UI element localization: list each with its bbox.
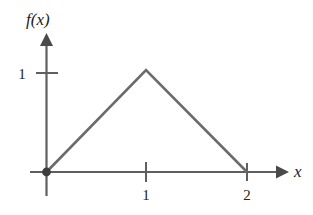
plot-canvas: f(x) x 1 1 2 — [0, 0, 313, 215]
x-axis-label: x — [293, 162, 302, 181]
y-axis-arrowhead-icon — [40, 33, 53, 46]
x-tick-label-1: 1 — [142, 187, 150, 203]
y-tick-label-1: 1 — [18, 66, 26, 82]
function-plot-figure: f(x) x 1 1 2 — [0, 0, 313, 215]
origin-point-marker — [42, 168, 51, 177]
x-axis-arrowhead-icon — [276, 166, 289, 179]
x-tick-label-2: 2 — [243, 187, 251, 203]
function-curve — [47, 70, 248, 172]
y-axis-label: f(x) — [26, 10, 50, 29]
